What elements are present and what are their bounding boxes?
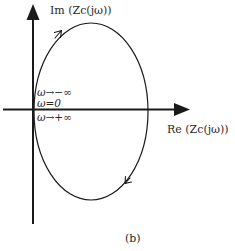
real-axis-arrowhead-icon xyxy=(174,103,190,116)
direction-arrow-upper-icon xyxy=(55,31,62,39)
imag-axis-label: Im (Zc(jω)) xyxy=(50,5,112,16)
real-axis-label: Re (Zc(jω)) xyxy=(167,124,229,135)
omega-pos-infinity-label: ω→+∞ xyxy=(37,112,72,123)
omega-neg-infinity-label: ω→−∞ xyxy=(37,87,72,98)
omega-zero-label: ω=0 xyxy=(37,98,61,109)
imag-axis-arrowhead-icon xyxy=(27,4,40,20)
figure-caption: (b) xyxy=(125,233,141,244)
